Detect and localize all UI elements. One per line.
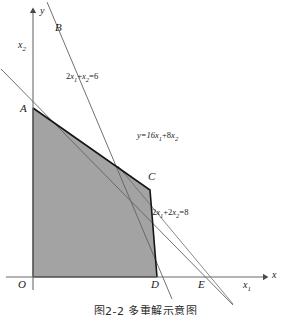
- point-label-c: C: [148, 171, 155, 182]
- y-axis-variable-subscript: 2: [22, 45, 26, 53]
- x-axis-label: x: [272, 270, 276, 280]
- x-axis-variable-label: x1: [243, 280, 251, 293]
- eq2-plus: +2: [163, 207, 172, 217]
- eq2-rhs: =8: [179, 207, 188, 217]
- figure-caption: 图2-2 多重解示意图: [0, 302, 291, 315]
- point-label-b: B: [55, 22, 62, 33]
- plot-canvas: [0, 0, 291, 315]
- point-label-o: O: [18, 279, 26, 290]
- point-label-d: D: [151, 279, 159, 290]
- y-axis-label: y: [40, 6, 44, 16]
- equation-label-constraint-2: 2x1+2x2=8: [152, 208, 188, 219]
- obj-sub2: 2: [175, 135, 178, 142]
- y-axis-variable-label: x2: [18, 40, 26, 53]
- equation-label-objective: y=16x1+8x2: [137, 131, 178, 142]
- x-axis-variable-subscript: 1: [247, 285, 251, 293]
- obj-plus: +8: [162, 130, 171, 140]
- eq1-rhs: =6: [89, 71, 98, 81]
- point-label-e: E: [198, 279, 205, 290]
- equation-label-constraint-1: 2x1+x2=6: [66, 72, 98, 83]
- linear-programming-figure: y x2 x x1 O A B C D E 2x1+x2=6 y=16x1+8x…: [0, 0, 291, 315]
- obj-lhs: y=16: [137, 130, 155, 140]
- point-label-a: A: [20, 103, 27, 114]
